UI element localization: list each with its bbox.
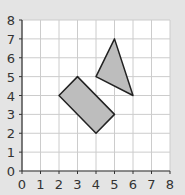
x-tick-label: 1	[36, 177, 44, 192]
y-tick-label: 6	[7, 51, 15, 66]
x-tick-label: 6	[129, 177, 137, 192]
x-tick-label: 5	[110, 177, 118, 192]
x-tick-label: 7	[147, 177, 155, 192]
y-tick-label: 3	[7, 107, 15, 122]
coordinate-grid: 012345678012345678	[0, 0, 185, 195]
y-tick-label: 7	[7, 32, 15, 47]
y-tick-label: 1	[7, 145, 15, 160]
y-tick-label: 5	[7, 70, 15, 85]
y-tick-label: 0	[7, 164, 15, 179]
x-tick-label: 8	[166, 177, 174, 192]
x-tick-label: 4	[92, 177, 100, 192]
y-tick-label: 4	[7, 89, 15, 104]
x-tick-label: 0	[18, 177, 26, 192]
y-tick-label: 2	[7, 126, 15, 141]
x-tick-label: 3	[73, 177, 81, 192]
x-tick-label: 2	[55, 177, 63, 192]
y-tick-label: 8	[7, 13, 15, 28]
